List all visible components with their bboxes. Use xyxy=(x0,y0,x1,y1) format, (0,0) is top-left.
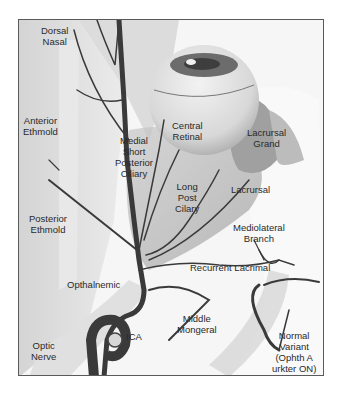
label-mediolateral-branch: Mediolateral Branch xyxy=(233,222,285,244)
label-text: Nerve xyxy=(31,351,56,362)
label-text: Grand xyxy=(247,138,286,149)
label-long-post-ciliary: Long Post Cilary xyxy=(175,181,199,214)
label-text: Posterior xyxy=(115,157,153,168)
label-ophthalmic: Opthalnemic xyxy=(67,279,120,290)
ica-lumen xyxy=(108,333,122,347)
label-text: Post xyxy=(175,192,199,203)
label-text: Lacrursal xyxy=(247,127,286,138)
label-text: Middle xyxy=(177,313,217,324)
label-text: Long xyxy=(175,181,199,192)
label-posterior-ethmoid: Posterior Ethmold xyxy=(29,213,67,235)
ophthalmic-artery-illustration xyxy=(19,20,324,376)
label-optic-nerve: Optic Nerve xyxy=(31,340,56,362)
label-text: Short xyxy=(115,146,153,157)
label-medial-short-posterior-ciliary: Medial Short Posterior Ciliary xyxy=(115,135,153,179)
label-normal-variant: Normal Variant (Ophth A urkter ON) xyxy=(272,330,316,374)
label-text: Ciliary xyxy=(115,168,153,179)
label-text: Central xyxy=(172,120,203,131)
label-text: Ethmold xyxy=(29,224,67,235)
label-lacrimal: Lacrursal xyxy=(231,184,270,195)
label-dorsal-nasal: Dorsal Nasal xyxy=(41,25,68,47)
label-text: Retinal xyxy=(172,131,203,142)
label-text: Branch xyxy=(233,233,285,244)
label-text: Variant xyxy=(272,341,316,352)
label-text: Medial xyxy=(115,135,153,146)
label-text: (Ophth A xyxy=(272,352,316,363)
label-anterior-ethmoid: Anterior Ethmold xyxy=(23,115,58,137)
label-ica: ICA xyxy=(126,331,142,342)
label-text: Normal xyxy=(272,330,316,341)
label-text: Dorsal xyxy=(41,25,68,36)
illustration-frame: Dorsal Nasal Anterior Ethmold Posterior … xyxy=(18,19,324,376)
label-text: Ethmold xyxy=(23,126,58,137)
label-text: Mongeral xyxy=(177,324,217,335)
label-central-retinal: Central Retinal xyxy=(172,120,203,142)
label-middle-meningeal: Middle Mongeral xyxy=(177,313,217,335)
label-text: Nasal xyxy=(41,36,68,47)
label-recurrent-lacrimal: Recurrent Lacrimal xyxy=(190,262,270,273)
label-text: Anterior xyxy=(23,115,58,126)
label-text: Mediolateral xyxy=(233,222,285,233)
label-text: Posterior xyxy=(29,213,67,224)
label-text: Cilary xyxy=(175,203,199,214)
label-text: urkter ON) xyxy=(272,363,316,374)
label-text: Optic xyxy=(31,340,56,351)
label-lacrimal-gland: Lacrursal Grand xyxy=(247,127,286,149)
